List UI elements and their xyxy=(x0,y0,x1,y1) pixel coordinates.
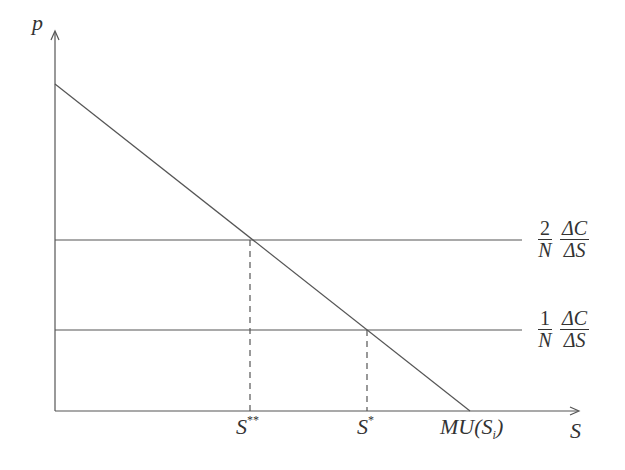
level-label-1n: 1N ΔCΔS xyxy=(538,308,589,351)
tick-s-star: S* xyxy=(357,416,374,438)
diagram-canvas xyxy=(0,0,625,470)
mu-label: MU(Si) xyxy=(440,416,503,441)
mu-curve xyxy=(55,84,470,411)
level-label-2n: 2N ΔCΔS xyxy=(538,218,589,261)
x-axis-label: S xyxy=(570,420,581,442)
tick-s-double-star: S** xyxy=(236,416,259,438)
y-axis-label: p xyxy=(32,12,43,34)
